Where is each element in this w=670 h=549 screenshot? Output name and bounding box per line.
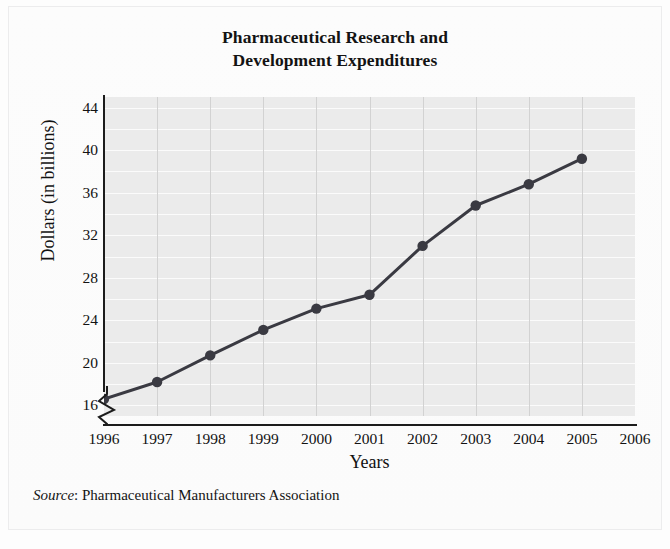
x-tick-label: 1998 xyxy=(181,430,239,448)
x-tick-label: 1999 xyxy=(234,430,292,448)
gridline-vertical xyxy=(316,97,317,416)
y-tick-label: 20 xyxy=(58,354,98,372)
gridline-vertical xyxy=(263,97,264,416)
x-tick-label: 1996 xyxy=(75,430,133,448)
gridline-vertical xyxy=(582,97,583,416)
y-tick-label: 36 xyxy=(58,184,98,202)
x-axis-title: Years xyxy=(104,452,635,473)
y-tick-label: 40 xyxy=(58,141,98,159)
chart-title-line-2: Development Expenditures xyxy=(115,49,555,72)
source-text: Pharmaceutical Manufacturers Association xyxy=(82,487,339,503)
x-tick-label: 2005 xyxy=(553,430,611,448)
y-axis-break-icon xyxy=(96,386,118,426)
x-tick-label: 2000 xyxy=(287,430,345,448)
gridline-vertical xyxy=(423,97,424,416)
y-tick-label: 16 xyxy=(58,396,98,414)
gridline-vertical xyxy=(370,97,371,416)
y-axis-line xyxy=(103,95,105,392)
y-tick-label: 24 xyxy=(58,311,98,329)
gridline-vertical xyxy=(476,97,477,416)
y-axis-tick-labels: 1620242832364044 xyxy=(52,0,98,549)
x-tick-label: 2006 xyxy=(606,430,664,448)
source-label: Source xyxy=(33,487,74,503)
source-note: Source: Pharmaceutical Manufacturers Ass… xyxy=(33,487,339,504)
gridline-vertical xyxy=(529,97,530,416)
chart-title: Pharmaceutical Research and Development … xyxy=(115,26,555,72)
x-tick-label: 2004 xyxy=(500,430,558,448)
y-tick-label: 32 xyxy=(58,226,98,244)
y-axis-title: Dollars (in billions) xyxy=(38,61,59,321)
x-axis-line xyxy=(103,424,637,426)
chart-figure: Pharmaceutical Research and Development … xyxy=(0,0,670,549)
gridline-vertical xyxy=(210,97,211,416)
x-tick-label: 2002 xyxy=(394,430,452,448)
x-tick-label: 2003 xyxy=(447,430,505,448)
plot-area: 1996: 16.61997: 18.21998: 20.71999: 23.1… xyxy=(104,97,635,416)
source-separator: : xyxy=(74,487,82,503)
x-tick-label: 2001 xyxy=(341,430,399,448)
y-tick-label: 28 xyxy=(58,269,98,287)
x-tick-label: 1997 xyxy=(128,430,186,448)
gridline-vertical xyxy=(157,97,158,416)
chart-title-line-1: Pharmaceutical Research and xyxy=(115,26,555,49)
y-tick-label: 44 xyxy=(58,99,98,117)
